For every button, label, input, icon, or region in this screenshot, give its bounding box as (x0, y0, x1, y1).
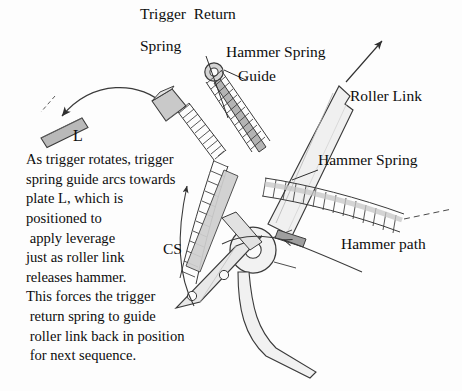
label-hammer-path: Hammer path (341, 236, 426, 252)
annotation-line: releases hammer. (26, 268, 241, 288)
annotation-line: roller link back in position (26, 327, 241, 347)
label-roller-link: Roller Link (350, 88, 422, 104)
annotation-block: As trigger rotates, trigger spring guide… (26, 150, 241, 366)
annotation-line: This forces the trigger (26, 287, 241, 307)
hammer-lower-leg (238, 272, 316, 378)
annotation-line: for next sequence. (26, 346, 241, 366)
diagram-canvas: Trigger Return Spring Hammer Spring Guid… (0, 0, 462, 391)
label-plate-l: L (73, 128, 83, 144)
label-hammer-spring-guide-line1: Hammer Spring (226, 44, 325, 60)
annotation-line: apply leverage (26, 229, 241, 249)
label-hammer-spring-guide-line2: Guide (238, 68, 276, 84)
label-trigger-return-spring-line2: Spring (140, 38, 181, 54)
annotation-line: positioned to (26, 209, 241, 229)
plate-l-motion-tick (41, 96, 55, 112)
label-trigger-return-spring-line1: Trigger Return (140, 6, 236, 22)
roller-link-direction-arrow-icon (346, 41, 382, 82)
hammer-spring-guide-rod (214, 79, 266, 152)
annotation-line: just as roller link (26, 248, 241, 268)
annotation-line: spring guide arcs towards (26, 170, 241, 190)
label-hammer-spring: Hammer Spring (318, 152, 417, 168)
annotation-line: plate L, which is (26, 189, 241, 209)
annotation-line: As trigger rotates, trigger (26, 150, 241, 170)
annotation-line: return spring to guide (26, 307, 241, 327)
hammer-spring-continuation-dashed (404, 209, 452, 219)
